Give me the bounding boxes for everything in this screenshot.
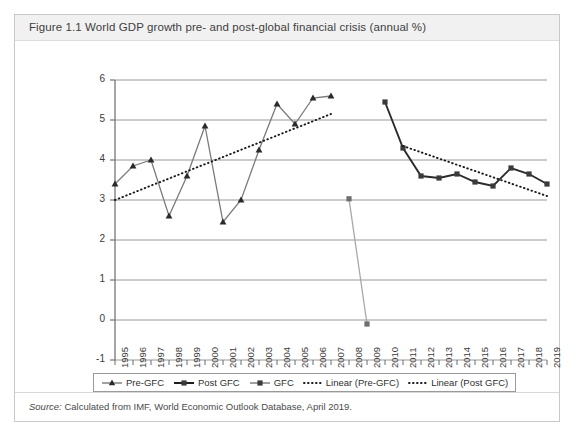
- figure-footer: Source: Calculated from IMF, World Econo…: [15, 392, 559, 421]
- figure-card: Figure 1.1 World GDP growth pre- and pos…: [14, 14, 560, 422]
- chart-svg: [15, 42, 561, 395]
- y-axis-tick-label: -1: [83, 353, 105, 364]
- data-point-marker: [364, 321, 369, 326]
- data-point-marker: [346, 196, 351, 201]
- data-point-marker: [436, 175, 441, 180]
- x-axis-tick-label: 2002: [245, 347, 256, 368]
- legend-item: GFC: [249, 377, 294, 388]
- x-axis-tick-label: 2000: [209, 347, 220, 368]
- data-point-marker: [508, 165, 513, 170]
- data-point-marker: [148, 156, 155, 162]
- data-point-marker: [202, 122, 209, 128]
- legend-label: Linear (Post GFC): [431, 377, 508, 388]
- data-point-marker: [256, 146, 263, 152]
- figure-header: Figure 1.1 World GDP growth pre- and pos…: [15, 15, 559, 41]
- x-axis-tick-label: 1997: [155, 347, 166, 368]
- x-axis-tick-label: 2008: [353, 347, 364, 368]
- y-axis-tick-label: 0: [83, 313, 105, 324]
- square-marker: [173, 378, 195, 388]
- series-line-gfc: [349, 199, 367, 324]
- data-point-marker: [418, 173, 423, 178]
- series-line-pre-gfc: [115, 96, 331, 222]
- x-axis-tick-label: 2017: [515, 347, 526, 368]
- y-axis-tick-label: 4: [83, 153, 105, 164]
- legend-label: Linear (Pre-GFC): [326, 377, 399, 388]
- dotted-line: [408, 378, 428, 388]
- x-axis-tick-label: 2015: [479, 347, 490, 368]
- legend-label: GFC: [274, 377, 294, 388]
- source-note: Source: Calculated from IMF, World Econo…: [29, 401, 352, 412]
- x-axis-tick-label: 2009: [371, 347, 382, 368]
- trendline-linear-pre-gfc-: [115, 114, 331, 200]
- x-axis-tick-label: 2007: [335, 347, 346, 368]
- data-point-marker: [382, 99, 387, 104]
- y-axis-tick-label: 5: [83, 113, 105, 124]
- data-point-marker: [184, 172, 191, 178]
- x-axis-tick-label: 2013: [443, 347, 454, 368]
- x-axis-tick-label: 2019: [551, 347, 562, 368]
- x-axis-tick-label: 2005: [299, 347, 310, 368]
- square-marker: [249, 378, 271, 388]
- y-axis-tick-label: 6: [83, 73, 105, 84]
- data-point-marker: [238, 196, 245, 202]
- legend-item: Post GFC: [173, 377, 240, 388]
- data-point-marker: [544, 181, 549, 186]
- legend-item: Pre-GFC: [101, 377, 164, 388]
- x-axis-tick-label: 2006: [317, 347, 328, 368]
- x-axis-tick-label: 2011: [407, 348, 418, 368]
- series-line-post-gfc: [385, 102, 547, 186]
- figure-body: -10123456 199519961997199819992000200120…: [15, 42, 559, 395]
- x-axis-tick-label: 2012: [425, 347, 436, 368]
- x-axis-tick-label: 2010: [389, 347, 400, 368]
- legend-label: Pre-GFC: [126, 377, 164, 388]
- data-point-marker: [274, 100, 281, 106]
- x-axis-tick-label: 2004: [281, 347, 292, 368]
- x-axis-tick-label: 2018: [533, 347, 544, 368]
- y-axis-tick-label: 2: [83, 233, 105, 244]
- source-label: Source:: [29, 401, 62, 412]
- legend-item: Linear (Pre-GFC): [303, 377, 399, 388]
- y-axis-tick-label: 1: [83, 273, 105, 284]
- data-point-marker: [454, 171, 459, 176]
- data-point-marker: [472, 179, 477, 184]
- x-axis-tick-label: 2001: [227, 347, 238, 368]
- chart-legend: Pre-GFCPost GFCGFCLinear (Pre-GFC)Linear…: [93, 373, 516, 392]
- chart-plot-area: -10123456 199519961997199819992000200120…: [15, 42, 561, 395]
- x-axis-tick-label: 1999: [191, 347, 202, 368]
- data-point-marker: [526, 171, 531, 176]
- data-point-marker: [490, 183, 495, 188]
- y-axis-tick-label: 3: [83, 193, 105, 204]
- trendline-linear-post-gfc-: [403, 146, 547, 196]
- triangle-marker: [101, 378, 123, 388]
- x-axis-tick-label: 1998: [173, 347, 184, 368]
- dotted-line: [303, 378, 323, 388]
- x-axis-tick-label: 1995: [119, 347, 130, 368]
- x-axis-tick-label: 1996: [137, 347, 148, 368]
- source-text: Calculated from IMF, World Economic Outl…: [64, 401, 352, 412]
- figure-title: Figure 1.1 World GDP growth pre- and pos…: [29, 21, 426, 33]
- x-axis-tick-label: 2016: [497, 347, 508, 368]
- legend-label: Post GFC: [198, 377, 240, 388]
- data-point-marker: [166, 212, 173, 218]
- x-axis-tick-label: 2014: [461, 347, 472, 368]
- legend-item: Linear (Post GFC): [408, 377, 508, 388]
- data-point-marker: [328, 92, 335, 98]
- x-axis-tick-label: 2003: [263, 347, 274, 368]
